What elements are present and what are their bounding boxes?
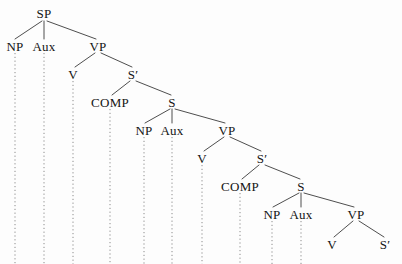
tree-node-comp-n7: COMP <box>91 96 129 109</box>
tree-node-aux-n17: Aux <box>290 208 313 221</box>
tree-node-s-n8: S <box>168 96 175 109</box>
tree-node-sp-n1: SP <box>37 7 52 20</box>
branch-lines-group <box>15 21 384 237</box>
tree-branch-line <box>75 53 95 67</box>
tree-node-vp-n4: VP <box>89 40 106 53</box>
tree-node-s-n15: S <box>297 180 304 193</box>
tree-node-vp-n11: VP <box>218 124 235 137</box>
tree-node-aux-n3: Aux <box>33 40 56 53</box>
tree-node-v-n5: V <box>68 68 78 81</box>
tree-node-s-n6: Sʹ <box>128 68 138 81</box>
syntax-tree-figure: SPNPAuxVPVSʹCOMPSNPAuxVPVSʹCOMPSNPAuxVPV… <box>0 0 402 264</box>
tree-branch-line <box>136 81 171 95</box>
tree-branch-line <box>334 221 353 237</box>
tree-branch-line <box>204 137 224 151</box>
tree-node-np-n9: NP <box>135 124 152 137</box>
tree-branch-line <box>273 193 299 207</box>
tree-branch-line <box>265 165 300 179</box>
tree-node-aux-n10: Aux <box>161 124 184 137</box>
tree-node-np-n2: NP <box>6 40 23 53</box>
tree-branch-line <box>242 165 259 179</box>
tree-node-vp-n18: VP <box>347 208 364 221</box>
tree-node-v-n19: V <box>327 238 337 251</box>
tree-branch-line <box>359 221 384 237</box>
tree-branch-line <box>145 109 170 123</box>
tree-branch-line <box>101 53 132 67</box>
tree-branch-line <box>175 109 225 123</box>
tree-branch-line <box>15 21 42 39</box>
tree-branch-line <box>47 21 96 39</box>
tree-branch-line <box>230 137 261 151</box>
tree-node-comp-n14: COMP <box>221 180 259 193</box>
tree-edges-layer <box>0 0 402 264</box>
tree-node-s-n20: Sʹ <box>380 238 390 251</box>
tree-node-v-n12: V <box>197 152 207 165</box>
tree-branch-line <box>112 81 130 95</box>
tree-node-s-n13: Sʹ <box>257 152 267 165</box>
tree-node-np-n16: NP <box>263 208 280 221</box>
tree-branch-line <box>304 193 354 207</box>
